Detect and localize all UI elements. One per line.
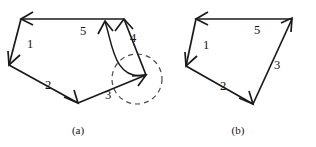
feedback-curve-path <box>105 22 146 76</box>
feedback-curve-arrowhead <box>98 21 113 34</box>
edge-label-1-b: 1 <box>203 38 209 52</box>
edge-label-1-a: 1 <box>27 37 33 51</box>
panel-b-group: 1 2 3 5 (b) <box>185 12 292 137</box>
edge-5-b <box>196 12 292 25</box>
edge-label-2-a: 2 <box>45 78 51 92</box>
caption-a: (a) <box>72 124 85 137</box>
edge-3-a-line <box>78 75 146 103</box>
edge-label-3-b: 3 <box>274 58 280 72</box>
edge-label-5-a: 5 <box>80 24 86 38</box>
edge-2-a-line <box>9 65 78 103</box>
edge-1-a <box>8 19 21 65</box>
feedback-curve-arrow <box>98 21 146 76</box>
edge-3-a <box>78 75 146 103</box>
edge-4-a-line <box>124 19 146 75</box>
edge-5-a <box>21 12 124 25</box>
vector-diagram: 1 2 3 4 5 (a) <box>0 0 316 147</box>
edge-1-b <box>185 19 197 66</box>
edge-label-3-a: 3 <box>105 88 111 102</box>
caption-b: (b) <box>232 124 245 137</box>
edge-4-a <box>115 19 146 75</box>
edge-2-a <box>9 65 78 103</box>
edge-1-a-line <box>9 19 21 65</box>
edge-label-2-b: 2 <box>220 79 226 93</box>
panel-a-group: 1 2 3 4 5 (a) <box>8 12 162 137</box>
edge-label-5-b: 5 <box>254 23 260 37</box>
figure-container: 1 2 3 4 5 (a) <box>0 0 316 147</box>
edge-label-4-a: 4 <box>130 31 137 45</box>
